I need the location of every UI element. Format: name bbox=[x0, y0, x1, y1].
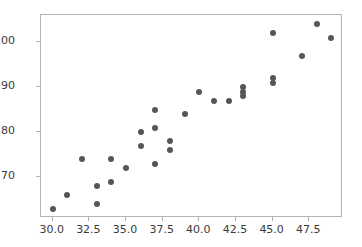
data-point bbox=[108, 179, 114, 185]
data-point bbox=[167, 147, 173, 153]
data-point bbox=[152, 125, 158, 131]
data-point bbox=[138, 143, 144, 149]
x-tick-mark bbox=[125, 217, 126, 221]
data-point bbox=[123, 165, 129, 171]
x-tick-label: 47.5 bbox=[278, 224, 338, 235]
data-point bbox=[94, 183, 100, 189]
data-point bbox=[196, 89, 202, 95]
data-point bbox=[50, 206, 56, 212]
data-point bbox=[299, 53, 305, 59]
data-point bbox=[108, 156, 114, 162]
scatter-plot-figure: 70809010030.032.535.037.540.042.545.047.… bbox=[0, 0, 362, 247]
x-tick-mark bbox=[198, 217, 199, 221]
y-tick-label: 80 bbox=[0, 125, 15, 136]
data-point bbox=[79, 156, 85, 162]
y-tick-mark bbox=[36, 41, 40, 42]
data-point bbox=[328, 35, 334, 41]
data-point bbox=[182, 111, 188, 117]
y-tick-mark bbox=[36, 131, 40, 132]
x-tick-mark bbox=[308, 217, 309, 221]
data-point bbox=[152, 107, 158, 113]
y-tick-mark bbox=[36, 86, 40, 87]
data-point bbox=[270, 30, 276, 36]
data-point bbox=[94, 201, 100, 207]
y-tick-label: 100 bbox=[0, 35, 15, 46]
data-point bbox=[240, 93, 246, 99]
y-tick-label: 90 bbox=[0, 80, 15, 91]
data-point bbox=[226, 98, 232, 104]
y-tick-label: 70 bbox=[0, 170, 15, 181]
plot-area bbox=[40, 14, 342, 217]
data-point bbox=[211, 98, 217, 104]
data-point bbox=[167, 138, 173, 144]
data-point bbox=[138, 129, 144, 135]
x-tick-mark bbox=[272, 217, 273, 221]
x-tick-mark bbox=[162, 217, 163, 221]
data-point bbox=[152, 161, 158, 167]
data-point bbox=[64, 192, 70, 198]
x-tick-mark bbox=[52, 217, 53, 221]
data-point bbox=[314, 21, 320, 27]
x-tick-mark bbox=[88, 217, 89, 221]
y-tick-mark bbox=[36, 176, 40, 177]
x-tick-mark bbox=[235, 217, 236, 221]
data-point bbox=[270, 80, 276, 86]
